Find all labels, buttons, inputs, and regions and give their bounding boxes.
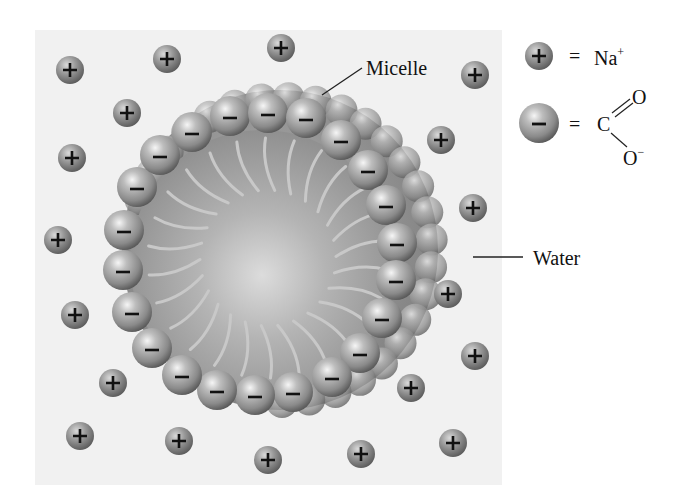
carboxylate-single-bond-oxygen: O− bbox=[623, 146, 644, 168]
carboxylate-bonds bbox=[611, 99, 633, 147]
back-head-group bbox=[415, 251, 447, 283]
sodium-ion bbox=[99, 369, 127, 397]
carboxylate-head bbox=[103, 250, 143, 290]
carboxylate-head bbox=[117, 167, 157, 207]
sodium-ion bbox=[66, 422, 94, 450]
carboxylate-head bbox=[162, 355, 202, 395]
sodium-ion bbox=[439, 429, 467, 457]
carboxylate-head bbox=[248, 93, 288, 133]
micelle-label: Micelle bbox=[366, 58, 427, 78]
sodium-ion bbox=[61, 301, 89, 329]
carboxylate-head bbox=[312, 357, 352, 397]
sodium-ion bbox=[347, 440, 375, 468]
sodium-ion bbox=[267, 34, 295, 62]
sodium-ion bbox=[427, 126, 455, 154]
oxygen-charge: − bbox=[637, 145, 644, 159]
carboxylate-head bbox=[235, 375, 275, 415]
legend-sodium-equals: = bbox=[569, 46, 580, 66]
sodium-ion bbox=[165, 427, 193, 455]
water-label: Water bbox=[533, 248, 580, 268]
sodium-ion bbox=[153, 45, 181, 73]
carboxylate-head bbox=[104, 210, 144, 250]
sodium-ion bbox=[397, 374, 425, 402]
carboxylate-carbon: C bbox=[597, 114, 610, 134]
carboxylate-head bbox=[321, 120, 361, 160]
sodium-ion bbox=[461, 342, 489, 370]
back-head-group bbox=[411, 196, 443, 228]
sodium-ion bbox=[459, 194, 487, 222]
oxygen-symbol: O bbox=[623, 147, 637, 169]
carboxylate-double-bond-oxygen: O bbox=[632, 87, 646, 107]
carboxylate-head bbox=[377, 223, 417, 263]
sodium-ion bbox=[254, 446, 282, 474]
legend-sodium-label: Na+ bbox=[594, 46, 624, 68]
carboxylate-head bbox=[362, 298, 402, 338]
sodium-ion bbox=[58, 144, 86, 172]
sodium-charge: + bbox=[617, 45, 624, 59]
carboxylate-head bbox=[210, 96, 250, 136]
sodium-symbol: Na bbox=[594, 47, 617, 69]
carboxylate-head bbox=[112, 292, 152, 332]
carboxylate-head bbox=[376, 260, 416, 300]
sodium-ion bbox=[113, 99, 141, 127]
carboxylate-head bbox=[172, 112, 212, 152]
back-head-group bbox=[416, 224, 448, 256]
micelle-illustration bbox=[0, 0, 686, 493]
sodium-ion bbox=[461, 61, 489, 89]
legend-carboxylate-icon bbox=[519, 103, 559, 143]
carboxylate-head bbox=[273, 372, 313, 412]
sodium-ion bbox=[56, 56, 84, 84]
carboxylate-head bbox=[132, 328, 172, 368]
carboxylate-head bbox=[286, 98, 326, 138]
micelle-diagram: Micelle Water = Na+ = C O O− bbox=[0, 0, 686, 493]
micelle-leader-line bbox=[322, 68, 362, 95]
carboxylate-head bbox=[348, 150, 388, 190]
carboxylate-head bbox=[140, 135, 180, 175]
sodium-ion bbox=[44, 226, 72, 254]
carboxylate-head bbox=[366, 185, 406, 225]
sodium-ion bbox=[434, 280, 462, 308]
legend-carboxylate-equals: = bbox=[569, 114, 580, 134]
carboxylate-head bbox=[197, 370, 237, 410]
legend-sodium-icon bbox=[525, 42, 553, 70]
